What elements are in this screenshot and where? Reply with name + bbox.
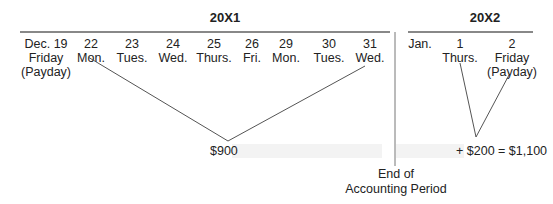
label-line-2: Accounting Period (340, 182, 452, 197)
accrued-amount-900: $900 (210, 144, 238, 158)
connector-lines (0, 0, 553, 204)
label-line-1: End of (340, 167, 452, 182)
amount-equation: + $200 = $1,100 (456, 144, 547, 158)
end-of-accounting-period-label: End of Accounting Period (340, 167, 452, 197)
